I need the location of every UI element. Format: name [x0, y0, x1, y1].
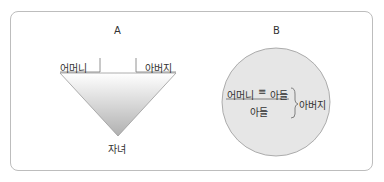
- panel-b-title: B: [273, 25, 280, 36]
- brace-father-label: 아버지: [299, 97, 326, 112]
- equivalence-symbol: ≡: [258, 86, 266, 97]
- panel-a-title: A: [114, 25, 121, 36]
- denominator-son: 아들: [250, 104, 268, 119]
- numerator-mother: 어머니: [227, 87, 254, 102]
- child-label: 자녀: [108, 141, 126, 156]
- father-label: 아버지: [145, 60, 172, 75]
- diagram-graphics: [0, 0, 384, 182]
- mother-label: 어머니: [60, 60, 87, 75]
- numerator-son: 아들: [270, 87, 288, 102]
- inheritance-triangle: [60, 73, 176, 136]
